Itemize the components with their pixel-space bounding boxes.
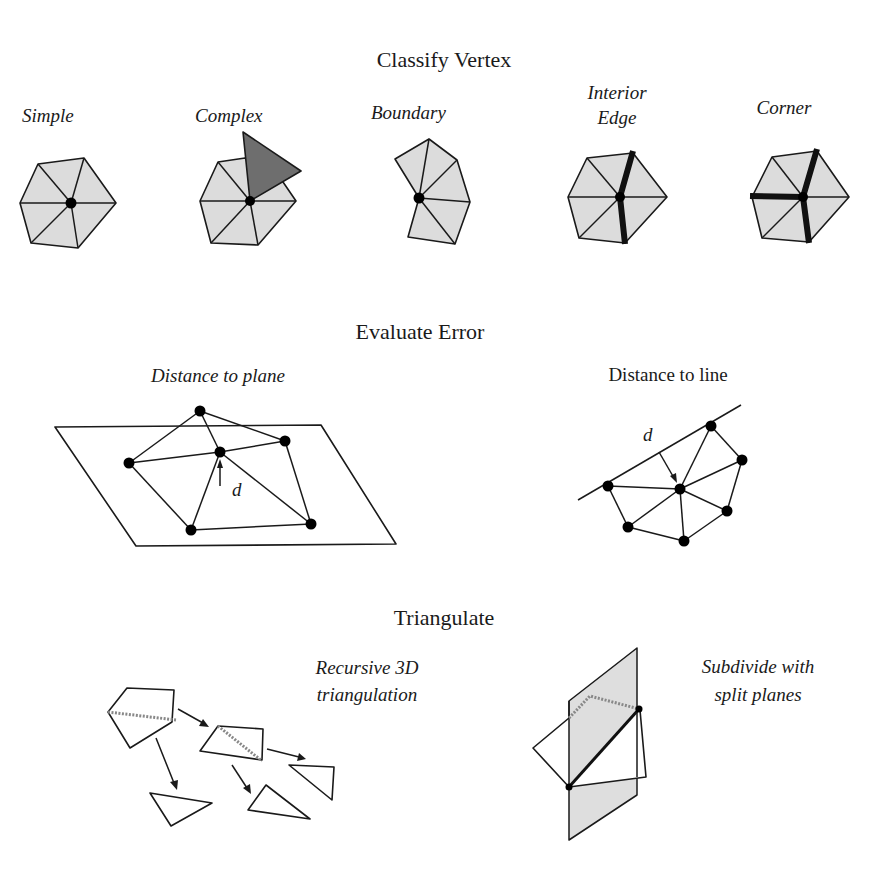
label-complex: Complex [195, 105, 263, 126]
interior-edge-vertex-fan [568, 151, 667, 244]
boundary-vertex-fan [395, 139, 470, 244]
label-edge: Edge [596, 107, 636, 128]
result-triangle [150, 793, 212, 826]
label-split-planes: split planes [714, 684, 801, 705]
classify-vertex-section: Classify Vertex Simple Complex [20, 47, 849, 248]
label-subdivide-with: Subdivide with [702, 656, 814, 677]
interior-edge-vertex-case: Interior Edge [568, 82, 667, 244]
section-title-classify: Classify Vertex [377, 47, 512, 72]
label-interior: Interior [586, 82, 647, 103]
distance-arrow [217, 459, 223, 486]
section-title-triangulate: Triangulate [394, 605, 495, 630]
arrows [156, 709, 306, 794]
distance-arrow [659, 452, 677, 483]
symbol-d-plane: d [232, 479, 242, 500]
vertex-dot [414, 193, 425, 204]
distance-to-line-case: Distance to line d [578, 364, 748, 547]
triangulate-section: Triangulate Recursive 3D triangulation [108, 605, 814, 840]
vertex-dot [798, 192, 808, 202]
simple-vertex-case: Simple [20, 105, 116, 248]
symbol-d-line: d [643, 424, 653, 445]
corner-vertex-fan [750, 149, 849, 243]
label-triangulation: triangulation [317, 684, 417, 705]
label-simple: Simple [22, 105, 74, 126]
split-planes-case: Subdivide with split planes [533, 648, 814, 840]
label-recursive-3d: Recursive 3D [315, 657, 419, 678]
boundary-vertex-case: Boundary [371, 102, 470, 244]
evaluate-error-section: Evaluate Error Distance to plane [55, 319, 748, 547]
result-triangle [289, 765, 334, 800]
corner-vertex-case: Corner [750, 97, 849, 243]
recursive-triangulation-case: Recursive 3D triangulation [108, 657, 419, 826]
vertex-dot [245, 196, 255, 206]
section-title-evaluate: Evaluate Error [356, 319, 486, 344]
distance-to-plane-case: Distance to plane [55, 365, 396, 546]
label-distance-to-plane: Distance to plane [150, 365, 285, 386]
vertex-decimation-figure: Classify Vertex Simple Complex [0, 0, 889, 883]
complex-vertex-fan [200, 132, 301, 245]
simple-vertex-fan [20, 158, 116, 248]
line-mesh [603, 421, 748, 547]
feature-edge [750, 196, 803, 197]
label-distance-to-line: Distance to line [608, 364, 727, 385]
vertex-dot [66, 198, 77, 209]
complex-vertex-case: Complex [195, 105, 301, 245]
result-triangle [248, 785, 310, 819]
vertex-dot [615, 192, 625, 202]
label-boundary: Boundary [371, 102, 447, 123]
label-corner: Corner [757, 97, 813, 118]
